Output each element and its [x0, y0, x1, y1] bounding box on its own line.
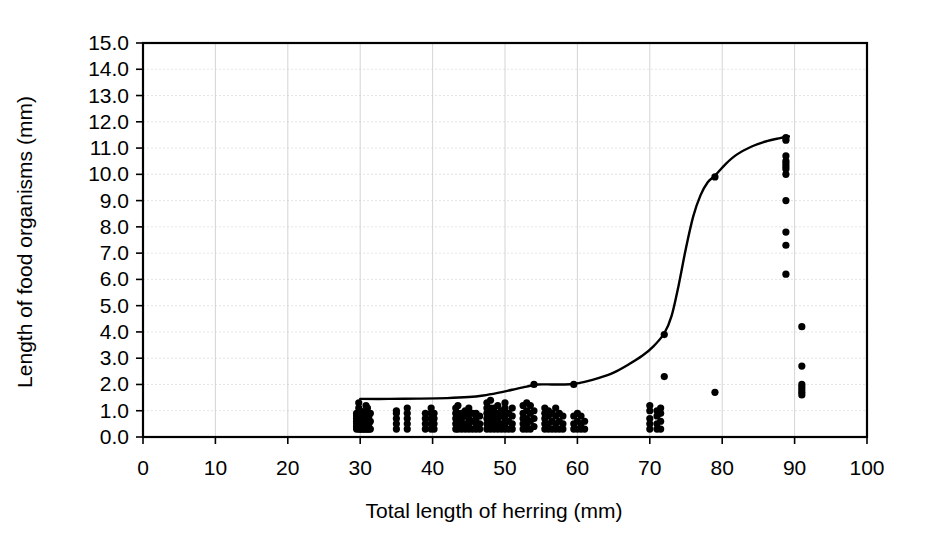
data-point [509, 405, 516, 412]
y-tick-label: 9.0 [100, 189, 129, 212]
data-point [404, 405, 411, 412]
y-tick-label: 2.0 [100, 372, 129, 395]
data-point [657, 405, 664, 412]
data-point [476, 420, 483, 427]
x-tick-label: 0 [137, 456, 149, 479]
x-tick-label: 100 [849, 456, 884, 479]
data-point [367, 418, 374, 425]
data-point [393, 407, 400, 414]
y-tick-label: 8.0 [100, 215, 129, 238]
data-point [454, 402, 461, 409]
data-point [430, 410, 437, 417]
x-tick-label: 70 [638, 456, 661, 479]
x-tick-label: 30 [349, 456, 372, 479]
data-point [798, 391, 805, 398]
data-point [367, 410, 374, 417]
data-point [476, 412, 483, 419]
data-point [530, 423, 537, 430]
chart-figure: 0102030405060708090100 0.01.02.03.04.05.… [0, 0, 928, 545]
data-point [509, 412, 516, 419]
y-tick-label: 1.0 [100, 399, 129, 422]
x-axis-title: Total length of herring (mm) [366, 499, 623, 522]
y-tick-label: 13.0 [88, 84, 129, 107]
data-point [646, 402, 653, 409]
y-axis-title: Length of food organisms (mm) [13, 96, 36, 388]
data-point [711, 389, 718, 396]
data-point [661, 373, 668, 380]
y-tick-label: 0.0 [100, 425, 129, 448]
data-point [559, 412, 566, 419]
data-point [798, 323, 805, 330]
data-point [530, 415, 537, 422]
data-point [782, 229, 789, 236]
data-point [530, 407, 537, 414]
data-point [646, 415, 653, 422]
data-point [782, 152, 789, 159]
y-tick-label: 10.0 [88, 162, 129, 185]
scatter-plot-svg: 0102030405060708090100 0.01.02.03.04.05.… [0, 0, 928, 545]
x-tick-label: 90 [783, 456, 806, 479]
y-tick-label: 6.0 [100, 267, 129, 290]
data-point [487, 397, 494, 404]
data-point [581, 426, 588, 433]
x-tick-label: 80 [711, 456, 734, 479]
x-tick-label: 20 [276, 456, 299, 479]
data-point [657, 418, 664, 425]
x-tick-label: 50 [493, 456, 516, 479]
data-point [367, 426, 374, 433]
y-tick-label: 12.0 [88, 110, 129, 133]
y-tick-label: 11.0 [90, 136, 129, 159]
x-tick-label: 60 [566, 456, 589, 479]
data-point [782, 271, 789, 278]
x-tick-label: 40 [421, 456, 444, 479]
y-tick-label: 3.0 [100, 346, 129, 369]
y-tick-label: 4.0 [100, 320, 129, 343]
data-point [798, 362, 805, 369]
data-point [509, 420, 516, 427]
data-point [782, 242, 789, 249]
y-tick-label: 7.0 [100, 241, 129, 264]
data-point [559, 420, 566, 427]
y-tick-label: 15.0 [88, 31, 129, 54]
data-point [581, 418, 588, 425]
data-point [657, 426, 664, 433]
x-tick-label: 10 [204, 456, 227, 479]
data-point [355, 399, 362, 406]
y-tick-label: 14.0 [88, 57, 129, 80]
data-point [501, 399, 508, 406]
data-point [782, 197, 789, 204]
y-tick-label: 5.0 [100, 294, 129, 317]
